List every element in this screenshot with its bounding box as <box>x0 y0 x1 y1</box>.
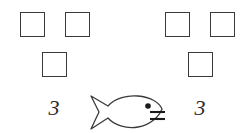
left-square-top-1[interactable] <box>20 12 45 37</box>
fish-eye-icon <box>145 103 151 109</box>
fish-symbol[interactable] <box>88 93 166 133</box>
left-square-top-2[interactable] <box>65 12 90 37</box>
right-count-numeral: 3 <box>188 97 212 119</box>
fish-icon <box>88 93 166 133</box>
worksheet-canvas: 3 3 <box>0 0 250 133</box>
right-square-top-2[interactable] <box>210 12 235 37</box>
left-count-numeral: 3 <box>42 97 66 119</box>
right-square-top-1[interactable] <box>165 12 190 37</box>
right-square-bottom-1[interactable] <box>188 52 213 77</box>
left-square-bottom-1[interactable] <box>42 52 67 77</box>
